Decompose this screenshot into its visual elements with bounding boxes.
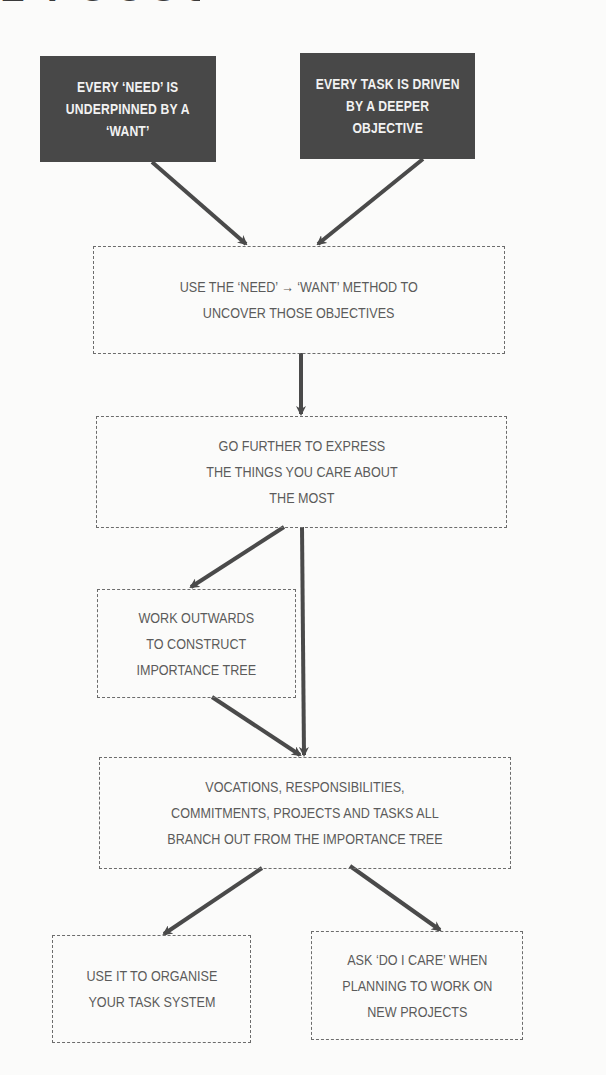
node-line: THE THINGS YOU CARE ABOUT [206, 459, 397, 485]
node-line: GO FURTHER TO EXPRESS [206, 433, 397, 459]
node-line: YOUR TASK SYSTEM [86, 989, 217, 1015]
node-line: UNCOVER THOSE OBJECTIVES [180, 300, 418, 326]
node-line: EVERY ‘NEED’ IS [66, 76, 190, 98]
node-method: USE THE ‘NEED’ → ‘WANT’ METHOD TO UNCOVE… [93, 246, 505, 354]
node-line: UNDERPINNED BY A [66, 98, 190, 120]
node-deeper-objective: EVERY TASK IS DRIVEN BY A DEEPER OBJECTI… [300, 53, 475, 159]
node-line: TO CONSTRUCT [137, 631, 257, 657]
node-line: NEW PROJECTS [342, 999, 492, 1025]
arrow-objective-to-method [318, 159, 423, 244]
arrow-workoutwards-to-vocations [212, 697, 300, 755]
node-line: WORK OUTWARDS [137, 605, 257, 631]
node-need-want: EVERY ‘NEED’ IS UNDERPINNED BY A ‘WANT’ [40, 56, 216, 162]
node-line: IMPORTANCE TREE [137, 657, 257, 683]
node-line: USE THE ‘NEED’ → ‘WANT’ METHOD TO [180, 274, 418, 300]
node-line: VOCATIONS, RESPONSIBILITIES, [167, 774, 442, 800]
node-line: USE IT TO ORGANISE [86, 963, 217, 989]
node-line: PLANNING TO WORK ON [342, 973, 492, 999]
node-line: ‘WANT’ [66, 120, 190, 142]
arrow-vocations-to-organise [164, 868, 262, 934]
node-work-outwards: WORK OUTWARDS TO CONSTRUCT IMPORTANCE TR… [97, 589, 296, 698]
arrow-vocations-to-docare [350, 866, 440, 930]
node-line: COMMITMENTS, PROJECTS AND TASKS ALL [167, 800, 442, 826]
node-go-further: GO FURTHER TO EXPRESS THE THINGS YOU CAR… [96, 416, 507, 528]
arrow-need-to-method [152, 162, 246, 244]
arrow-gofurther-to-vocations [302, 527, 304, 755]
node-do-i-care: ASK ‘DO I CARE’ WHEN PLANNING TO WORK ON… [311, 931, 523, 1040]
node-line: BY A DEEPER [316, 95, 460, 117]
node-line: OBJECTIVE [316, 117, 460, 139]
node-line: ASK ‘DO I CARE’ WHEN [342, 947, 492, 973]
node-vocations: VOCATIONS, RESPONSIBILITIES, COMMITMENTS… [99, 757, 511, 869]
node-line: THE MOST [206, 485, 397, 511]
arrow-gofurther-to-workoutwards [191, 527, 284, 587]
node-organise: USE IT TO ORGANISE YOUR TASK SYSTEM [52, 935, 251, 1043]
node-line: BRANCH OUT FROM THE IMPORTANCE TREE [167, 826, 442, 852]
node-line: EVERY TASK IS DRIVEN [316, 73, 460, 95]
